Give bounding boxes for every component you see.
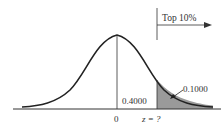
bell-curve: [22, 35, 213, 107]
normal-curve-figure: Top 10% 0.4000 0.1000 0 z = ?: [0, 0, 223, 125]
z-tick-label: z = ?: [141, 114, 161, 124]
top-percent-label: Top 10%: [162, 13, 197, 23]
tail-area-label: 0.1000: [183, 84, 208, 94]
center-area-label: 0.4000: [122, 96, 147, 106]
mean-tick-label: 0: [114, 114, 119, 124]
arrow-right-icon: [204, 22, 212, 28]
